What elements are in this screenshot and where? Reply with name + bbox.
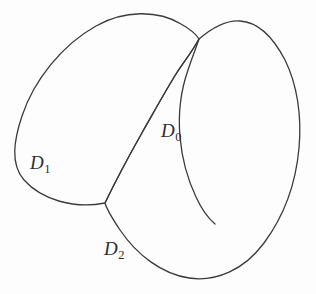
region-label-d0-base: D (161, 120, 175, 141)
overlapping-domains-diagram (0, 0, 316, 294)
region-label-d0-subscript: 0 (175, 130, 181, 144)
figure-background (0, 0, 316, 294)
region-label-d1: D1 (30, 153, 50, 175)
region-label-d1-base: D (30, 152, 44, 173)
region-label-d2: D2 (104, 239, 124, 261)
figure-container: D0 D1 D2 (0, 0, 316, 294)
region-label-d2-base: D (104, 238, 118, 259)
region-label-d1-subscript: 1 (44, 162, 50, 176)
region-label-d0: D0 (161, 121, 181, 143)
region-label-d2-subscript: 2 (118, 248, 124, 262)
